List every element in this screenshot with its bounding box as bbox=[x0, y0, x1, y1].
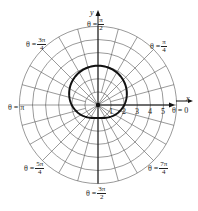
angle-label-7pi-over-4: θ = 7π4 bbox=[148, 161, 168, 176]
radial-tick-5: 5 bbox=[161, 108, 165, 116]
angle-label-5pi-over-4: θ = 5π4 bbox=[24, 161, 44, 176]
angle-label-pi: θ = π bbox=[8, 104, 24, 112]
grid-ray bbox=[59, 105, 98, 173]
grid-ray bbox=[30, 66, 98, 105]
grid-ray bbox=[59, 37, 98, 105]
grid-ray bbox=[98, 66, 166, 105]
grid-ray bbox=[78, 29, 95, 92]
grid-ray bbox=[101, 118, 118, 181]
radial-tick-2: 2 bbox=[122, 108, 126, 116]
angle-label-3pi-over-4: θ = 3π4 bbox=[26, 37, 46, 52]
grid-ray bbox=[78, 118, 95, 181]
angle-label-0: θ = 0 bbox=[172, 107, 188, 115]
radial-tick-1: 1 bbox=[109, 108, 113, 116]
angle-label-3pi-over-2: θ = 3π2 bbox=[86, 186, 106, 201]
grid-ray bbox=[30, 105, 98, 144]
grid-ray bbox=[98, 105, 137, 173]
grid-ray bbox=[22, 85, 85, 102]
grid-ray bbox=[42, 105, 98, 161]
grid-ray bbox=[101, 29, 118, 92]
axes bbox=[96, 10, 194, 184]
grid-ray bbox=[98, 37, 137, 105]
radial-tick-3: 3 bbox=[135, 108, 139, 116]
pole-point bbox=[96, 103, 100, 107]
radial-tick-4: 4 bbox=[148, 108, 152, 116]
x-axis-label: x bbox=[186, 95, 190, 103]
angle-label-pi-over-2: θ = π2 bbox=[87, 17, 104, 32]
grid-ray bbox=[111, 85, 174, 102]
y-axis-label: y bbox=[90, 9, 94, 17]
angle-label-pi-over-4: θ = π4 bbox=[150, 39, 167, 54]
